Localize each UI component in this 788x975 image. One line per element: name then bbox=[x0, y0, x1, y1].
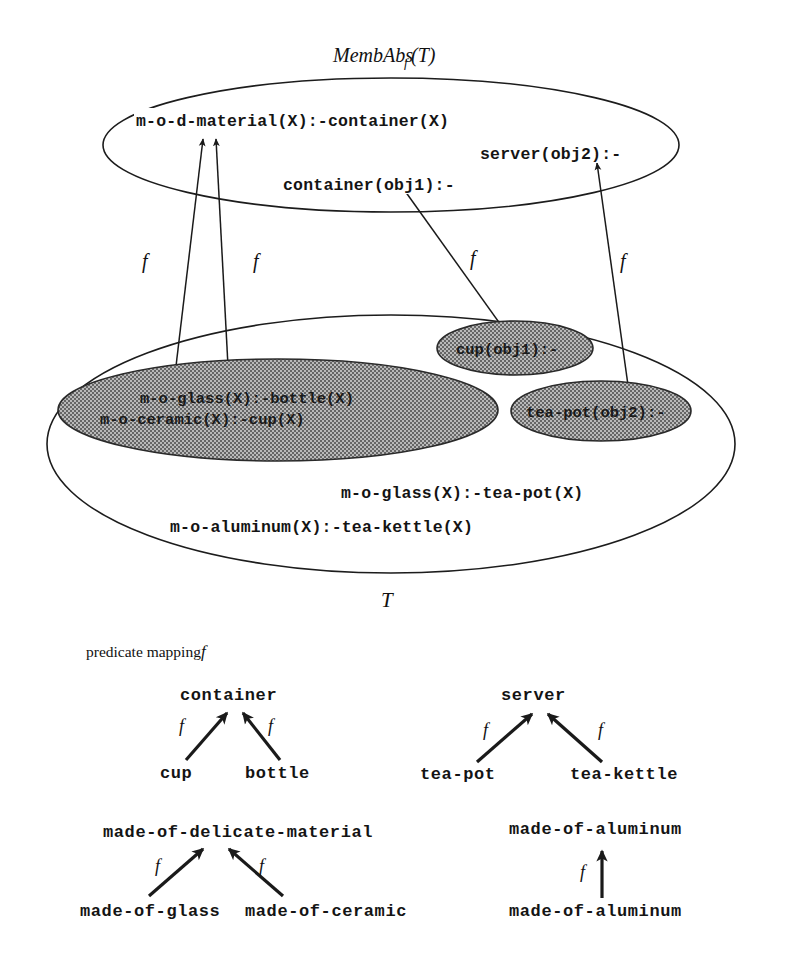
mapping-edge-label-aluminum-aluminum: f bbox=[580, 862, 588, 882]
mapping-child-tea-kettle: tea-kettle bbox=[570, 765, 678, 784]
mapping-edge-label-ceramic-delicate: f bbox=[259, 856, 267, 876]
mapping-group-aluminum: made-of-aluminum f made-of-aluminum bbox=[509, 820, 682, 921]
mapping-edge-label-bottle-container: f bbox=[268, 716, 276, 736]
abstraction-arrow-4-label: f bbox=[620, 250, 628, 273]
mapping-parent-made-of-delicate-material: made-of-delicate-material bbox=[103, 823, 373, 842]
shaded-clause-glass-bottle: m-o-glass(X):-bottle(X) bbox=[140, 390, 354, 408]
mapping-edge-ceramic-delicate bbox=[229, 849, 283, 896]
mapping-parent-container: container bbox=[180, 686, 277, 705]
top-set-label: MembAbs f (T) bbox=[332, 44, 436, 70]
abstract-clause-container-obj1: container(obj1):- bbox=[283, 176, 455, 195]
base-theory-plain-clauses: m-o-glass(X):-tea-pot(X) m-o-aluminum(X)… bbox=[170, 484, 583, 537]
abstraction-arrow-2-label: f bbox=[253, 250, 261, 273]
shaded-clause-ceramic-cup: m-o-ceramic(X):-cup(X) bbox=[100, 411, 305, 429]
top-set-label-main: MembAbs bbox=[332, 44, 413, 66]
mapping-edge-label-glass-delicate: f bbox=[155, 856, 163, 876]
membabs-diagram: MembAbs f (T) f f f f m-o-d-material(X):… bbox=[0, 0, 788, 975]
abstract-theory-clauses: m-o-d-material(X):-container(X) server(o… bbox=[134, 108, 666, 195]
mapping-edge-teakettle-server bbox=[548, 714, 602, 762]
figure-page: MembAbs f (T) f f f f m-o-d-material(X):… bbox=[0, 0, 788, 975]
shaded-clause-teapot-obj2: tea-pot(obj2):- bbox=[526, 404, 666, 422]
abstract-clause-mod-material: m-o-d-material(X):-container(X) bbox=[136, 112, 449, 131]
mapping-child-made-of-glass: made-of-glass bbox=[80, 902, 220, 921]
abstract-clause-server-obj2: server(obj2):- bbox=[480, 145, 621, 164]
mapping-group-container: container f f cup bottle bbox=[160, 686, 310, 783]
shaded-clause-cup-obj1: cup(obj1):- bbox=[456, 341, 558, 359]
abstraction-arrow-3-label: f bbox=[470, 247, 478, 270]
mapping-edge-bottle-container bbox=[243, 713, 280, 760]
mapping-group-delicate-material: made-of-delicate-material f f made-of-gl… bbox=[80, 823, 407, 921]
mapping-parent-server: server bbox=[501, 686, 566, 705]
predicate-mapping-caption-text: predicate mapping bbox=[86, 643, 201, 660]
mapping-edge-label-cup-container: f bbox=[179, 716, 187, 736]
mapping-edge-label-teakettle-server: f bbox=[598, 720, 606, 740]
shaded-blob-glass-ceramic bbox=[58, 359, 498, 461]
top-set-label-argument: (T) bbox=[411, 44, 436, 67]
mapping-edge-label-teapot-server: f bbox=[483, 720, 491, 740]
mapping-group-server: server f f tea-pot tea-kettle bbox=[420, 686, 678, 784]
predicate-mapping-caption-symbol: f bbox=[201, 642, 208, 661]
mapping-edge-cup-container bbox=[186, 713, 227, 760]
mapping-parent-made-of-aluminum: made-of-aluminum bbox=[509, 820, 682, 839]
mapping-child-cup: cup bbox=[160, 764, 192, 783]
base-clause-aluminum-teakettle: m-o-aluminum(X):-tea-kettle(X) bbox=[170, 518, 473, 537]
mapping-child-made-of-ceramic: made-of-ceramic bbox=[245, 902, 407, 921]
mapping-child-made-of-aluminum: made-of-aluminum bbox=[509, 902, 682, 921]
mapping-child-tea-pot: tea-pot bbox=[420, 765, 496, 784]
predicate-mapping-caption: predicate mapping f bbox=[86, 642, 208, 661]
base-set-label: T bbox=[381, 588, 394, 612]
mapping-child-bottle: bottle bbox=[245, 764, 310, 783]
base-clause-glass-teapot: m-o-glass(X):-tea-pot(X) bbox=[341, 484, 583, 503]
abstraction-arrow-1-label: f bbox=[142, 250, 150, 273]
